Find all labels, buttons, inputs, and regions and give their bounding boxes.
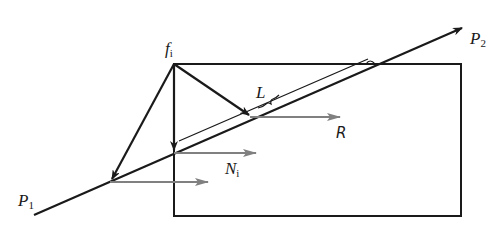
line-p1-p2 [34, 28, 462, 215]
label-p1: P1 [18, 192, 34, 211]
label-L: L [256, 84, 265, 101]
label-f-i: fi [165, 40, 173, 59]
block-rectangle [174, 64, 461, 216]
label-p2: P2 [470, 30, 486, 49]
diagram-svg [0, 0, 500, 238]
diagram-canvas: fi P2 P1 L R Ni [0, 0, 500, 238]
arrow-fi-to-p1-side [112, 64, 174, 179]
arrow-fi-to-line [174, 64, 249, 115]
label-N-i: Ni [225, 160, 239, 179]
label-R: R [336, 126, 346, 141]
